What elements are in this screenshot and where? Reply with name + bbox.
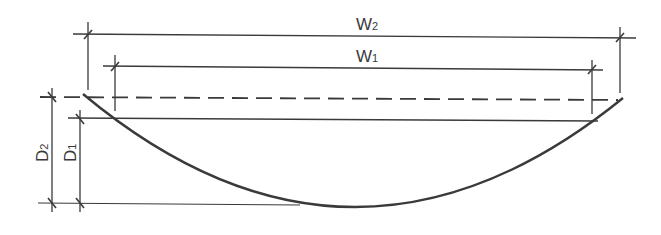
rim-dashed-line	[40, 97, 618, 100]
d1-label: D1	[61, 144, 80, 162]
dimension-diagram: W2 W1 D2 D1	[0, 0, 661, 235]
w1-label: W1	[356, 47, 378, 66]
base-line	[38, 203, 300, 205]
w2-dimension	[73, 22, 636, 93]
inner-level-line	[68, 118, 598, 121]
w2-dimension-line	[73, 34, 636, 38]
w1-dimension	[103, 55, 603, 114]
bowl-curve	[83, 94, 623, 207]
w1-dimension-line	[103, 66, 603, 70]
w2-label: W2	[356, 15, 378, 34]
d2-label: D2	[33, 144, 52, 162]
